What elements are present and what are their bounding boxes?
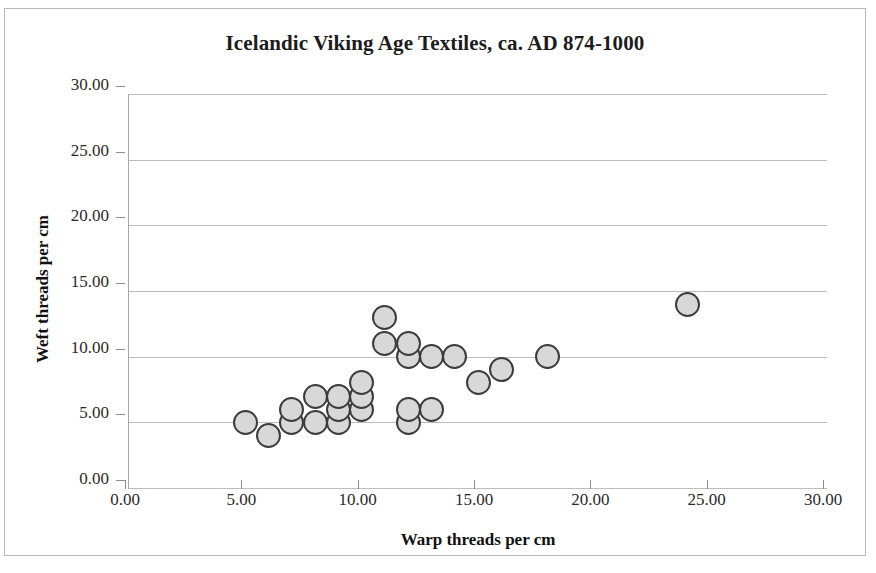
y-axis-tick (116, 283, 125, 284)
data-point (396, 397, 421, 422)
x-axis-tick-label: 5.00 (196, 490, 286, 510)
x-axis-tick-label: 10.00 (313, 490, 403, 510)
y-axis-tick (116, 480, 125, 481)
data-point (419, 344, 444, 369)
chart-title: Icelandic Viking Age Textiles, ca. AD 87… (5, 31, 865, 56)
data-point (303, 410, 328, 435)
data-point (466, 370, 491, 395)
y-axis-tick (116, 217, 125, 218)
data-point (372, 305, 397, 330)
data-point (303, 384, 328, 409)
data-point (489, 357, 514, 382)
x-axis-tick-label: 0.00 (80, 490, 170, 510)
y-axis-tick-label: 25.00 (37, 141, 109, 161)
y-axis-tick-label: 15.00 (37, 272, 109, 292)
x-axis-tick-label: 30.00 (778, 490, 868, 510)
x-axis-tick (823, 480, 824, 489)
data-point (442, 344, 467, 369)
plot-area (129, 94, 827, 488)
data-point (233, 410, 258, 435)
x-axis-tick (125, 480, 126, 489)
data-point (419, 397, 444, 422)
data-point (326, 384, 351, 409)
y-axis-tick (116, 152, 125, 153)
x-axis-tick (590, 480, 591, 489)
x-axis-tick (241, 480, 242, 489)
y-axis-tick-label: 0.00 (37, 469, 109, 489)
y-axis-tick (116, 86, 125, 87)
data-point (256, 423, 281, 448)
x-axis-tick (707, 480, 708, 489)
x-axis-tick-label: 20.00 (545, 490, 635, 510)
data-point (279, 397, 304, 422)
gridline-horizontal (129, 94, 827, 95)
y-axis-tick (116, 414, 125, 415)
gridline-horizontal (129, 291, 827, 292)
y-axis-tick-label: 30.00 (37, 75, 109, 95)
y-axis-tick-label: 10.00 (37, 338, 109, 358)
gridline-horizontal (129, 488, 827, 489)
data-point (535, 344, 560, 369)
data-point (396, 331, 421, 356)
data-point (675, 292, 700, 317)
y-axis-tick-label: 20.00 (37, 206, 109, 226)
x-axis-tick (474, 480, 475, 489)
x-axis-tick-label: 25.00 (662, 490, 752, 510)
x-axis-tick (358, 480, 359, 489)
chart-frame: Icelandic Viking Age Textiles, ca. AD 87… (4, 8, 866, 556)
data-point (372, 331, 397, 356)
gridline-horizontal (129, 357, 827, 358)
y-axis-tick (116, 349, 125, 350)
x-axis-title: Warp threads per cm (129, 530, 827, 550)
x-axis-tick-label: 15.00 (429, 490, 519, 510)
y-axis-tick-label: 5.00 (37, 403, 109, 423)
gridline-horizontal (129, 225, 827, 226)
gridline-horizontal (129, 160, 827, 161)
